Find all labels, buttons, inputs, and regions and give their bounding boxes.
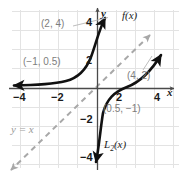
graph-canvas: [0, 0, 181, 174]
identity-line: [11, 35, 150, 170]
curve-f-of-x: [14, 18, 105, 86]
coordinate-graph-figure: 4 2 −2 −4 −4 −2 2 4 x y f(x) L2(x) y = x…: [0, 0, 181, 174]
